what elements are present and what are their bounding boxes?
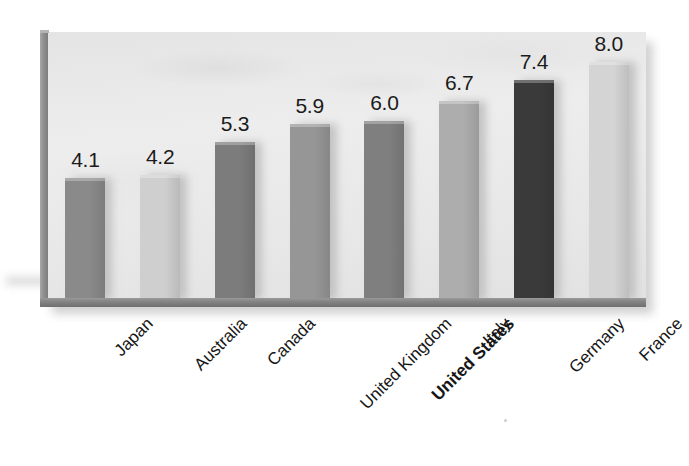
bar-rect (290, 124, 330, 300)
bar-top-highlight (140, 175, 180, 178)
x-label-france: France (635, 314, 687, 366)
x-axis-baseline (40, 298, 646, 307)
bar-top-highlight (65, 178, 105, 181)
bar-rect (514, 80, 554, 300)
bar-top-highlight (364, 121, 404, 124)
x-label-australia: Australia (191, 314, 252, 375)
bar-top-highlight (514, 80, 554, 83)
bar-value-label: 6.7 (445, 71, 473, 95)
bar-rect (65, 178, 105, 300)
bar-united-kingdom[interactable]: 5.9 (290, 32, 330, 300)
bars-container: 4.14.25.35.96.06.77.48.0 (48, 32, 646, 300)
bar-top-highlight (439, 101, 479, 104)
x-label-canada: Canada (264, 314, 320, 370)
x-label-japan: Japan (110, 314, 157, 361)
bar-canada[interactable]: 5.3 (215, 32, 255, 300)
bar-top-highlight (215, 142, 255, 145)
bar-value-label: 5.3 (221, 112, 249, 136)
bar-rect (439, 101, 479, 301)
bar-top-highlight (589, 62, 629, 65)
bar-rect (589, 62, 629, 300)
bar-rect (215, 142, 255, 300)
bar-rect (364, 121, 404, 300)
plot-frame: 4.14.25.35.96.06.77.48.0 (40, 30, 646, 306)
scan-speck (504, 419, 507, 422)
bar-australia[interactable]: 4.2 (140, 32, 180, 300)
bar-italy[interactable]: 6.7 (439, 32, 479, 300)
bar-value-label: 5.9 (295, 94, 323, 118)
bar-value-label: 4.2 (146, 145, 174, 169)
bar-united-states[interactable]: 6.0 (364, 32, 404, 300)
chart-page: 4.14.25.35.96.06.77.48.0 JapanAustraliaC… (0, 0, 689, 466)
bar-rect (140, 175, 180, 300)
bar-france[interactable]: 8.0 (589, 32, 629, 300)
bar-value-label: 4.1 (71, 148, 99, 172)
bar-germany[interactable]: 7.4 (514, 32, 554, 300)
bar-japan[interactable]: 4.1 (65, 32, 105, 300)
y-axis-line (40, 30, 48, 306)
bar-top-highlight (290, 124, 330, 127)
bar-value-label: 6.0 (370, 91, 398, 115)
bar-value-label: 7.4 (520, 50, 548, 74)
bar-value-label: 8.0 (594, 32, 622, 56)
x-label-germany: Germany (566, 314, 630, 378)
